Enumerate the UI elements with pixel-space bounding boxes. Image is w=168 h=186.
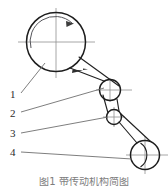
leader-line-4 — [21, 152, 132, 159]
figure-caption: 图1 带传动机构简图 — [0, 177, 168, 186]
belt-1-2-upper-strand — [79, 57, 119, 86]
callout-label-4: 4 — [10, 147, 16, 158]
belt-3-4-left-strand — [119, 122, 137, 143]
callout-label-1: 1 — [10, 89, 16, 100]
rotation-arrow — [30, 16, 74, 48]
leader-lines — [21, 63, 132, 159]
belt-2-3-right-strand — [117, 99, 119, 111]
leader-line-3 — [21, 117, 108, 133]
leader-line-2 — [21, 88, 104, 112]
callout-label-3: 3 — [10, 128, 16, 139]
belt-3-4-right-strand — [121, 114, 150, 141]
figure-container: 1 2 3 4 图1 带传动机构简图 — [0, 0, 168, 186]
rotation-arrow-arc — [30, 16, 72, 48]
belt-direction-arrow-tip — [83, 68, 88, 70]
callout-label-2: 2 — [10, 108, 16, 119]
leader-line-1 — [21, 63, 45, 93]
mechanism-diagram — [0, 0, 168, 186]
